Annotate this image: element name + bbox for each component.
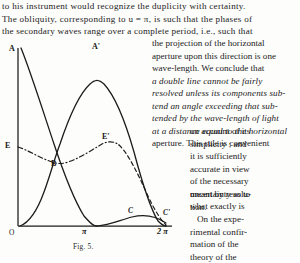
point-label-A: A [9,44,15,53]
narrow-column2-line-5: mation of the [190,238,300,251]
axis-origin-label: O [9,228,14,237]
top-paragraph-line-2: The obliquity, corresponding to u = π, i… [2,13,300,26]
narrow-text-column-2: meant by resolu- tion. On the expe- rime… [190,188,300,263]
point-label-C-prime: C' [163,208,170,217]
figure-caption: Fig. 5. [73,242,94,251]
narrow-column2-line-4: rimental confir- [190,226,300,239]
base-line-hump [97,216,166,226]
resultant-curve-left [18,142,119,164]
point-label-B: B [51,159,56,168]
narrow-column-line-3: it is sufficiently [190,150,300,163]
figure-5: A A' E B E' C C' O π 2 π Fig. 5. [0,40,175,257]
narrow-column-line-5: of the necessary [190,175,300,188]
second-component-curve [20,80,166,226]
top-paragraph-line-3: the secondary waves range over a complet… [2,25,300,38]
point-label-E: E [5,141,10,150]
top-paragraph: to his instrument would recognize the du… [2,0,300,38]
narrow-column-line-2: simplicity ; and [190,138,300,151]
x-tick-label-pi: π [82,227,86,236]
x-tick-label-2pi: 2 π [157,227,168,236]
narrow-column2-line-6: theory of the [190,251,300,263]
resultant-curve-tail [119,145,166,225]
point-label-A-prime: A' [92,42,100,51]
first-component-curve [21,48,97,226]
point-label-C: C [128,206,133,215]
top-paragraph-line-1: to his instrument would recognize the du… [2,0,300,13]
narrow-column2-line-2: tion. [190,201,300,214]
narrow-column2-line-3: On the expe- [190,213,300,226]
narrow-column2-line-1: meant by resolu- [190,188,300,201]
point-label-E-prime: E' [102,132,110,141]
narrow-column-line-1: on account of its [190,125,300,138]
figure-5-plot [0,40,175,257]
narrow-column-line-4: accurate in view [190,163,300,176]
